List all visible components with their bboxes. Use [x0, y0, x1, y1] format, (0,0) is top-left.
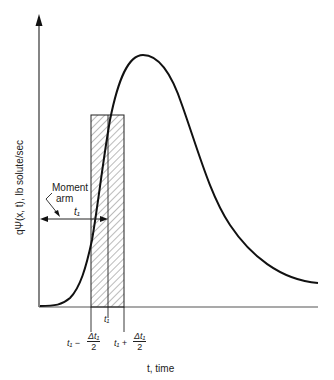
y-axis: [36, 14, 43, 307]
right-edge-fraction: Δt₁ 2: [133, 331, 146, 352]
center-tick-label: t₁: [104, 314, 109, 324]
right-edge-prefix: t₁ +: [114, 338, 127, 348]
left-edge-fraction: Δt₁ 2: [87, 331, 100, 352]
left-edge-prefix: t₁ −: [67, 338, 80, 348]
left-frac-numerator: Δt₁: [87, 331, 100, 342]
right-frac-numerator: Δt₁: [133, 331, 146, 342]
leader-arrow-icon: [54, 210, 60, 217]
x-axis-label: t, time: [147, 363, 174, 374]
concentration-curve: [40, 55, 318, 306]
y-axis-label: qΨ(x, t), lb solute/sec: [14, 140, 25, 235]
arrow-left-icon: [40, 216, 48, 222]
arm-length-label: t₁: [74, 206, 80, 217]
left-frac-denominator: 2: [91, 342, 96, 352]
right-frac-denominator: 2: [137, 342, 142, 352]
moment-arm-label-line2: arm: [56, 193, 73, 204]
moment-arm-label-line1: Moment: [52, 182, 88, 193]
y-axis-arrow-icon: [36, 14, 43, 26]
diagram-canvas: [0, 0, 334, 380]
